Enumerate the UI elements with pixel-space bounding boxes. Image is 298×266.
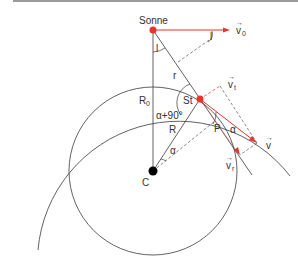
alpha-star-label: α <box>230 124 236 135</box>
alpha-plus-90-label: α+90° <box>156 110 183 121</box>
c-to-p-dashed <box>153 121 215 171</box>
r-label: r <box>173 70 177 81</box>
v0-sub: 0 <box>242 30 246 37</box>
p-label: P <box>214 123 221 134</box>
vr-vec-mark: → <box>226 154 233 161</box>
v0-projection-dashed <box>178 38 212 62</box>
st-label: St <box>183 95 193 106</box>
v0-arrowhead <box>223 28 230 33</box>
v0-label: v <box>236 25 241 36</box>
angle-alpha-center-arc <box>161 159 166 161</box>
vr-sub: r <box>232 165 235 172</box>
v-label: v <box>266 140 271 151</box>
sun-label: Sonne <box>139 15 168 26</box>
sun-dot <box>150 27 157 34</box>
v-vec-mark: → <box>266 134 273 141</box>
vt-dashed <box>200 86 220 99</box>
angle-l-right-label: l <box>210 31 212 42</box>
v-arrow <box>200 99 253 140</box>
r0-sub: 0 <box>146 100 150 107</box>
alpha-center-label: α <box>170 145 176 156</box>
center-dot <box>149 167 158 176</box>
v0-vec-mark: → <box>236 19 243 26</box>
vt-label: v <box>228 79 233 90</box>
vr-label: v <box>226 160 231 171</box>
angle-l-top-label: l <box>156 43 158 54</box>
star-dot <box>197 96 204 103</box>
vt-sub: t <box>234 84 236 91</box>
galactic-rotation-diagram: Sonne v 0 l l r v t R 0 St α+90° R α P α… <box>0 0 298 266</box>
vt-vec-mark: → <box>228 73 235 80</box>
angle-l-top-arc <box>153 48 165 52</box>
r-inner-label: R <box>169 124 176 135</box>
c-label: C <box>142 177 149 188</box>
vr-box-dashed <box>240 143 257 155</box>
